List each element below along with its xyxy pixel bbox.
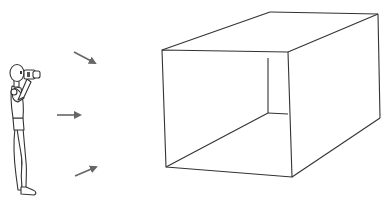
box-inner-back-bottom xyxy=(268,113,288,114)
person-foot xyxy=(21,187,36,195)
box-top-right-edge xyxy=(288,14,378,52)
person-pelvis xyxy=(13,118,24,130)
camera-lens xyxy=(33,71,40,78)
person-figure xyxy=(10,65,36,196)
diagram-canvas xyxy=(0,0,388,201)
box-back-right-edge xyxy=(378,14,380,118)
camera-icon xyxy=(24,70,40,79)
diagram-svg xyxy=(0,0,388,201)
camera-grip xyxy=(27,72,30,77)
arrow-up-right xyxy=(75,167,96,176)
view-direction-arrows xyxy=(57,52,96,176)
box-inner-floor-edge xyxy=(166,113,268,167)
box-top-back-edge xyxy=(270,12,378,14)
box-bottom-right-edge xyxy=(292,118,380,177)
box-top-left-edge xyxy=(162,12,270,50)
open-box xyxy=(162,12,380,177)
person-shoulder xyxy=(11,89,17,95)
arrow-down-right xyxy=(74,52,95,63)
person-face-detail xyxy=(20,71,22,74)
